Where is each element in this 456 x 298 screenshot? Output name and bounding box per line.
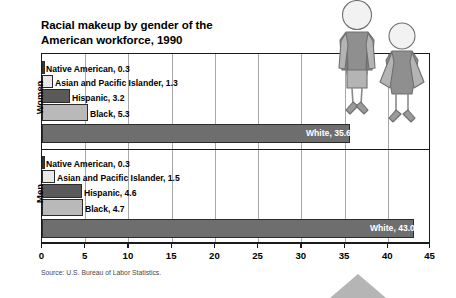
- x-tick-label-45: 45: [424, 250, 435, 261]
- gridline-35: [345, 54, 346, 242]
- x-axis-line: [41, 243, 430, 244]
- x-tick-40: [387, 243, 388, 248]
- gridline-25: [258, 54, 259, 242]
- x-tick-label-25: 25: [252, 250, 263, 261]
- bar-label-women-white: White, 35.6: [306, 128, 351, 138]
- x-tick-5: [84, 243, 85, 248]
- x-tick-30: [300, 243, 301, 248]
- bar-label-women-asian-pacific-islander: Asian and Pacific Islander, 1.3: [55, 78, 178, 88]
- x-tick-label-5: 5: [82, 250, 87, 261]
- chart-title-line-2: American workforce, 1990: [41, 33, 331, 48]
- bar-men-hispanic: [42, 184, 82, 198]
- bar-label-men-native-american: Native American, 0.3: [46, 159, 130, 169]
- x-tick-15: [171, 243, 172, 248]
- gridline-40: [388, 54, 389, 242]
- bar-label-women-native-american: Native American, 0.3: [46, 64, 130, 74]
- bar-women-hispanic: [42, 89, 70, 103]
- gridline-30: [301, 54, 302, 242]
- group-divider: [42, 149, 429, 150]
- chart-title: Racial makeup by gender of the American …: [41, 18, 331, 47]
- bar-label-men-black: Black, 4.7: [85, 204, 125, 214]
- x-tick-label-35: 35: [339, 250, 350, 261]
- x-tick-20: [214, 243, 215, 248]
- group-label-women: Women: [34, 68, 45, 128]
- bar-women-white: [42, 124, 350, 143]
- x-tick-45: [429, 243, 430, 248]
- x-tick-label-30: 30: [295, 250, 306, 261]
- x-tick-label-40: 40: [382, 250, 393, 261]
- x-tick-0: [41, 243, 42, 248]
- x-tick-label-10: 10: [123, 250, 134, 261]
- bar-men-white: [42, 219, 414, 238]
- bar-label-men-hispanic: Hispanic, 4.6: [84, 188, 137, 198]
- x-tick-label-15: 15: [166, 250, 177, 261]
- gridline-20: [215, 54, 216, 242]
- source-note: Source: U.S. Bureau of Labor Statistics.: [41, 269, 161, 276]
- bar-women-black: [42, 104, 88, 121]
- bar-label-women-hispanic: Hispanic, 3.2: [72, 93, 125, 103]
- chart-title-line-1: Racial makeup by gender of the: [41, 18, 331, 33]
- x-tick-label-20: 20: [209, 250, 220, 261]
- x-tick-35: [344, 243, 345, 248]
- bar-men-black: [42, 199, 83, 216]
- bar-label-men-white: White, 43.0: [370, 223, 415, 233]
- bar-label-men-asian-pacific-islander: Asian and Pacific Islander, 1.5: [57, 173, 180, 183]
- triangle-icon: [328, 272, 388, 298]
- x-tick-25: [257, 243, 258, 248]
- group-label-men: Men: [34, 164, 45, 224]
- bar-label-women-black: Black, 5.3: [90, 109, 130, 119]
- x-tick-label-0: 0: [39, 250, 44, 261]
- x-tick-10: [127, 243, 128, 248]
